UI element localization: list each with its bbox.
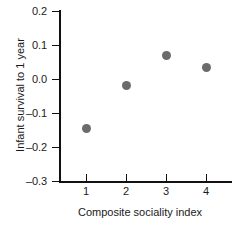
x-axis-tick-label: 2	[116, 186, 136, 197]
x-axis-tick	[86, 174, 87, 181]
data-point	[162, 51, 171, 60]
scatter-chart: 0.20.10.0–0.1–0.2–0.3 1234 Infant surviv…	[0, 0, 241, 228]
x-axis-tick-label: 1	[76, 186, 96, 197]
x-axis-title: Composite sociality index	[40, 206, 240, 218]
x-axis-tick	[126, 174, 127, 181]
data-point	[202, 63, 211, 72]
data-point	[82, 124, 91, 133]
y-axis-tick	[52, 181, 59, 182]
y-axis-tick	[52, 79, 59, 80]
x-axis-tick-label: 3	[156, 186, 176, 197]
y-axis-tick	[52, 113, 59, 114]
y-axis-tick	[52, 147, 59, 148]
y-axis-line	[59, 10, 61, 183]
y-axis-tick	[52, 45, 59, 46]
x-axis-tick	[166, 174, 167, 181]
y-axis-title: Infant survival to 1 year	[14, 10, 26, 180]
data-point	[122, 81, 131, 90]
y-axis-tick	[52, 11, 59, 12]
x-axis-line	[59, 181, 232, 183]
x-axis-tick	[206, 174, 207, 181]
x-axis-tick-label: 4	[196, 186, 216, 197]
